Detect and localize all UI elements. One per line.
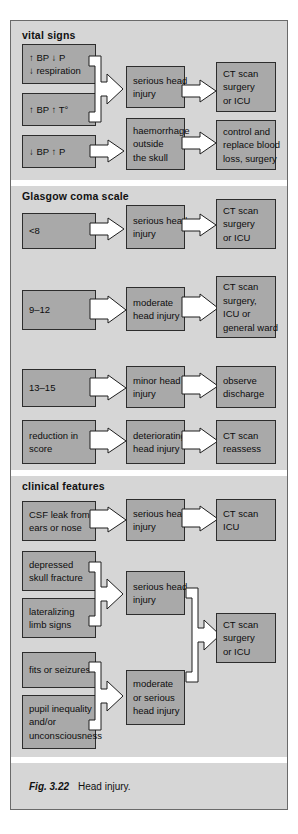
arrow-vital-to-action-1 [182, 80, 220, 106]
box-vital-action-1: CT scan surgery or ICU [216, 62, 276, 112]
box-line: CT scan [223, 280, 269, 294]
box-line: serious head [133, 214, 178, 228]
box-gcs-assessment-4: deteriorating head injury [126, 420, 185, 464]
panel-separator-1 [11, 180, 287, 186]
box-cf-assessment-2: serious head injury [126, 571, 185, 615]
box-line: unconsciousness [29, 729, 89, 743]
box-line: discharge [223, 387, 269, 401]
box-line: ↓ respiration [29, 64, 89, 78]
panel-title-vital-signs: vital signs [22, 29, 76, 41]
box-line: fits or seizures [29, 663, 89, 677]
box-line: the skull [133, 151, 178, 165]
panel-separator-2 [11, 470, 287, 476]
box-line: lateralizing [29, 605, 89, 619]
box-line: depressed [29, 558, 89, 572]
box-line: injury [133, 520, 178, 534]
box-line: replace blood [223, 138, 269, 152]
box-cf-action-2: CT scan surgery or ICU [216, 613, 276, 663]
arrow-cf-merge-4-5 [85, 658, 129, 738]
box-line: injury [133, 227, 178, 241]
box-line: head injury [133, 704, 178, 718]
arrow-gcs-2 [90, 296, 130, 326]
arrow-vital-to-action-2 [182, 132, 220, 158]
box-vital-action-2: control and replace blood loss, surgery [216, 120, 276, 170]
box-line: CT scan [223, 429, 269, 443]
box-vital-trigger-3: ↓ BP ↑ P [22, 135, 96, 168]
box-line: skull fracture [29, 571, 89, 585]
box-line: moderate [133, 677, 178, 691]
box-line: or ICU [223, 645, 269, 659]
box-line: reduction in [29, 429, 89, 443]
box-gcs-action-3: observe discharge [216, 366, 276, 408]
arrow-cf-1 [90, 507, 130, 535]
box-vital-assessment-2: haemorrhage outside the skull [126, 118, 185, 170]
box-line: CT scan [223, 204, 269, 218]
box-line: score [29, 442, 89, 456]
box-gcs-assessment-1: serious head injury [126, 205, 185, 249]
box-line: ICU [223, 520, 269, 534]
box-line: injury [133, 387, 178, 401]
panel-title-clinical-features: clinical features [22, 480, 105, 492]
arrow-gcs-1 [90, 218, 128, 244]
box-line: CT scan [223, 507, 269, 521]
box-line: haemorrhage [133, 124, 178, 138]
box-line: CT scan [223, 618, 269, 632]
arrow-gcs-3 [90, 375, 130, 403]
box-cf-action-1: CT scan ICU [216, 499, 276, 541]
box-line: serious head [133, 74, 178, 88]
box-line: CT scan [223, 67, 269, 81]
box-gcs-action-4: CT scan reassess [216, 420, 276, 464]
box-gcs-score-3: 13–15 [22, 369, 96, 407]
box-line: injury [133, 87, 178, 101]
arrow-vital-3 [90, 140, 128, 166]
box-line: injury [133, 593, 178, 607]
arrow-gcs-4 [90, 428, 130, 456]
box-line: control and [223, 125, 269, 139]
box-line: ↑ BP ↓ P [29, 51, 89, 65]
box-gcs-score-4: reduction in score [22, 420, 96, 464]
box-line: serious head [133, 580, 178, 594]
box-line: and/or [29, 715, 89, 729]
box-line: observe [223, 374, 269, 388]
box-line: surgery [223, 217, 269, 231]
box-line: outside [133, 137, 178, 151]
box-line: head injury [133, 309, 178, 323]
box-gcs-score-1: <8 [22, 213, 96, 249]
box-cf-assessment-1: serious head injury [126, 499, 185, 541]
box-line: reassess [223, 442, 269, 456]
box-gcs-assessment-3: minor head injury [126, 366, 185, 408]
box-line: loss, surgery [223, 152, 269, 166]
figure-caption-text: Head injury. [78, 781, 131, 792]
figure-number: Fig. 3.22 [29, 781, 69, 792]
box-line: deteriorating [133, 429, 178, 443]
box-line: moderate [133, 296, 178, 310]
box-line: or ICU [223, 94, 269, 108]
box-cf-assessment-3: moderate or serious head injury [126, 670, 185, 725]
box-line: surgery [223, 80, 269, 94]
box-line: ears or nose [29, 521, 89, 535]
arrow-gcs-to-action-1 [182, 214, 220, 240]
box-line: limb signs [29, 618, 89, 632]
box-line: surgery, [223, 294, 269, 308]
figure-caption: Fig. 3.22 Head injury. [11, 763, 287, 809]
box-line: general ward [223, 321, 269, 335]
box-gcs-action-1: CT scan surgery or ICU [216, 199, 276, 249]
box-vital-assessment-1: serious head injury [126, 66, 185, 108]
box-line: head injury [133, 442, 178, 456]
box-cf-feature-1: CSF leak from ears or nose [22, 501, 96, 541]
box-line: ICU or [223, 307, 269, 321]
box-line: surgery [223, 631, 269, 645]
box-line: 9–12 [29, 303, 89, 317]
figure-head-injury-flowchart: vital signs ↑ BP ↓ P ↓ respiration ↑ BP … [0, 0, 298, 834]
box-line: ↑ BP ↑ T° [29, 103, 89, 117]
box-line: or ICU [223, 231, 269, 245]
arrow-vital-merge-1 [85, 52, 127, 130]
box-gcs-assessment-2: moderate head injury [126, 287, 185, 331]
box-line: ↓ BP ↑ P [29, 145, 89, 159]
box-gcs-action-2: CT scan surgery, ICU or general ward [216, 276, 276, 338]
box-line: minor head [133, 374, 178, 388]
box-line: serious head [133, 507, 178, 521]
box-line: or serious [133, 691, 178, 705]
box-line: pupil inequality [29, 702, 89, 716]
box-line: CSF leak from [29, 508, 89, 522]
